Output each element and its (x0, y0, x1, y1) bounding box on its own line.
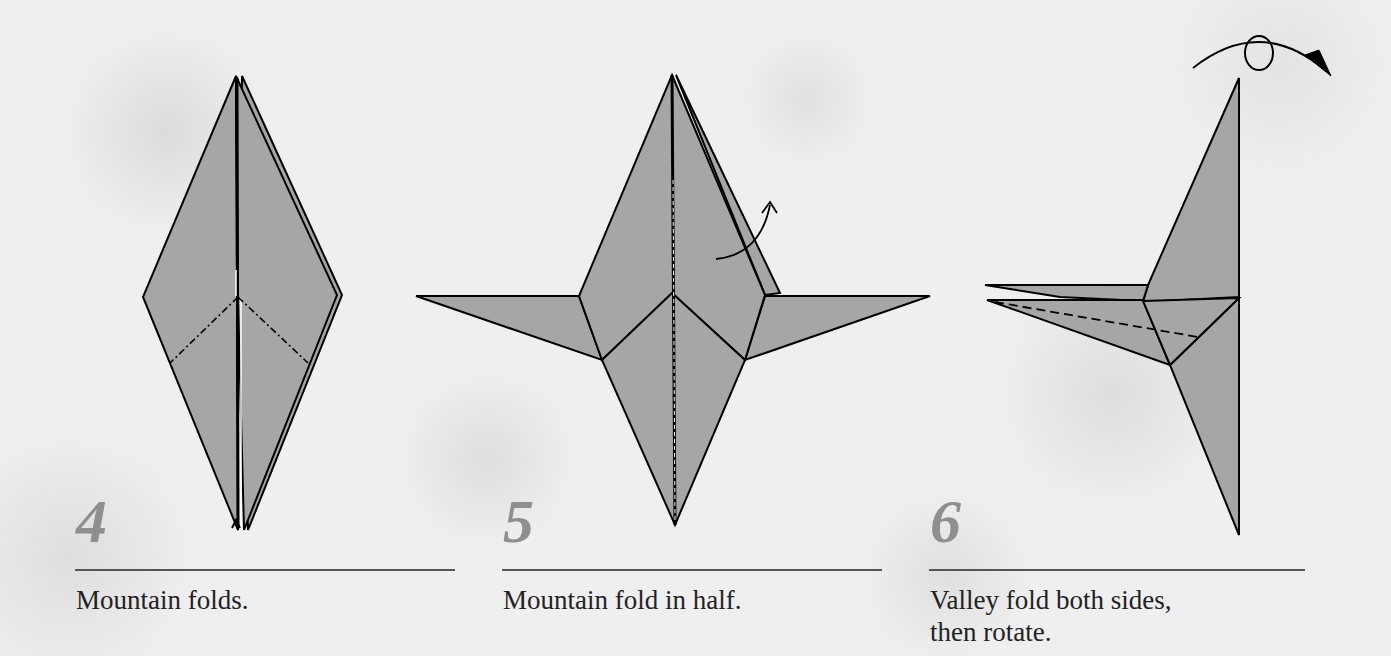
step-6-caption: Valley fold both sides, then rotate. (930, 584, 1171, 648)
step-4-number: 4 (76, 490, 107, 552)
step-4-left-flap (143, 76, 238, 530)
step-4-divider (75, 569, 455, 571)
step-5-caption: Mountain fold in half. (503, 584, 741, 616)
origami-diagram-canvas (0, 0, 1391, 656)
step-6-back-tail (985, 285, 1148, 301)
step-4-caption: Mountain folds. (76, 584, 249, 616)
step-6-divider (929, 569, 1305, 571)
step-6-number: 6 (930, 490, 961, 552)
step-5-left-point (416, 296, 602, 360)
step-6-diagram (985, 36, 1331, 535)
step-6-rotate-arrow (1193, 42, 1325, 70)
step-6-caption-line-2: then rotate. (930, 616, 1171, 648)
step-6-upper-wing (1143, 78, 1239, 302)
step-4-diagram (143, 76, 342, 530)
step-5-number: 5 (503, 490, 534, 552)
step-4-right-flap (236, 76, 337, 530)
step-6-front-tail (987, 300, 1170, 365)
step-5-right-point (745, 296, 930, 360)
step-6-caption-line-1: Valley fold both sides, (930, 584, 1171, 616)
step-5-divider (502, 569, 882, 571)
step-5-diagram (416, 75, 930, 525)
